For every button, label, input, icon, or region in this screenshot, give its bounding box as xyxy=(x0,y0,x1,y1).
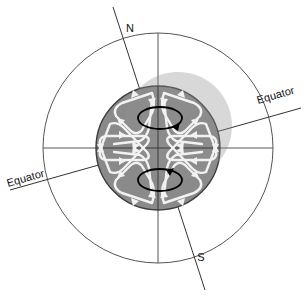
planetary-dynamo-diagram: N S Equator Equator xyxy=(0,0,307,295)
south-pole-label: S xyxy=(197,251,204,263)
diagram-root: N S Equator Equator xyxy=(0,0,307,295)
equator-label-right: Equator xyxy=(255,84,296,106)
north-pole-label: N xyxy=(126,22,134,34)
